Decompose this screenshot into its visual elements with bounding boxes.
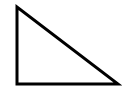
diagram-canvas <box>0 0 122 92</box>
right-triangle <box>17 7 118 84</box>
